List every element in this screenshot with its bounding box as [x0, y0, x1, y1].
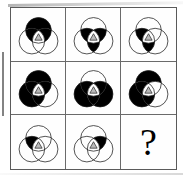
venn-three-circles-icon [126, 13, 171, 56]
venn-three-circles-icon [16, 13, 61, 56]
matrix-grid: ? [10, 7, 177, 170]
venn-three-circles-icon [71, 66, 116, 109]
cell-row1-col3[interactable] [121, 8, 176, 62]
question-mark-glyph: ? [140, 123, 157, 161]
cell-row2-col2[interactable] [66, 62, 121, 116]
cell-row1-col1[interactable] [11, 8, 66, 62]
venn-three-circles-icon [16, 66, 61, 109]
cell-row1-col2[interactable] [66, 8, 121, 62]
cell-row3-col1[interactable] [11, 115, 66, 169]
scan-artifact-bottom-line [0, 173, 183, 175]
cell-row2-col3[interactable] [121, 62, 176, 116]
venn-three-circles-icon [126, 66, 171, 109]
scan-artifact-left-line [2, 52, 4, 116]
cell-row3-col2[interactable] [66, 115, 121, 169]
venn-three-circles-icon [71, 13, 116, 56]
cell-row2-col1[interactable] [11, 62, 66, 116]
cell-row3-col3-answer[interactable]: ? [121, 115, 176, 169]
venn-three-circles-icon [71, 121, 116, 164]
venn-three-circles-icon [16, 121, 61, 164]
